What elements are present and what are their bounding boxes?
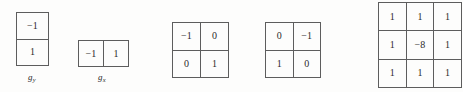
kernel-cell: 1 [103, 41, 128, 66]
kernel-cell: 0 [293, 51, 321, 78]
kernel-cell: 1 [379, 3, 406, 30]
kernel-row: −1 0 [173, 23, 228, 50]
kernel-figure: −1 1 gy −1 1 gx −1 0 0 1 0 −1 1 0 [0, 0, 463, 92]
kernel-cell: 1 [200, 51, 228, 78]
kernel-label-base: g [28, 72, 33, 82]
kernel-cell: 0 [173, 51, 200, 78]
kernel-row: 1 1 1 [379, 3, 461, 30]
kernel-label-gx: gx [98, 73, 105, 82]
roberts-kernel-2: 0 −1 1 0 [265, 22, 321, 78]
kernel-row: −1 1 [79, 41, 128, 66]
kernel-cell: −8 [406, 31, 434, 58]
kernel-cell: 1 [17, 40, 48, 66]
kernel-cell: 1 [266, 51, 293, 78]
kernel-cell: 1 [433, 60, 461, 87]
kernel-cell: −1 [293, 23, 321, 50]
kernel-cell: 1 [406, 60, 434, 87]
kernel-label-subscript: x [103, 76, 106, 83]
kernel-row: −1 [17, 13, 48, 39]
kernel-cell: −1 [17, 13, 48, 39]
kernel-label-gy: gy [28, 73, 35, 82]
kernel-cell: 1 [433, 31, 461, 58]
roberts-kernel-1: −1 0 0 1 [172, 22, 229, 78]
kernel-cell: 1 [379, 60, 406, 87]
kernel-row: 0 −1 [266, 23, 320, 50]
kernel-label-base: g [98, 72, 103, 82]
kernel-cell: 0 [266, 23, 293, 50]
kernel-row: 1 1 1 [379, 59, 461, 87]
kernel-cell: −1 [173, 23, 200, 50]
kernel-cell: −1 [79, 41, 103, 66]
kernel-row: 1 0 [266, 50, 320, 78]
kernel-row: 1 [17, 39, 48, 66]
kernel-row: 0 1 [173, 50, 228, 78]
kernel-cell: 1 [379, 31, 406, 58]
kernel-label-subscript: y [33, 76, 36, 83]
kernel-row: 1 −8 1 [379, 30, 461, 58]
gradient-kernel-gx: −1 1 [78, 40, 129, 67]
gradient-kernel-gy: −1 1 [16, 12, 49, 66]
laplacian-kernel: 1 1 1 1 −8 1 1 1 1 [378, 2, 462, 88]
kernel-cell: 1 [433, 3, 461, 30]
kernel-cell: 1 [406, 3, 434, 30]
kernel-cell: 0 [200, 23, 228, 50]
